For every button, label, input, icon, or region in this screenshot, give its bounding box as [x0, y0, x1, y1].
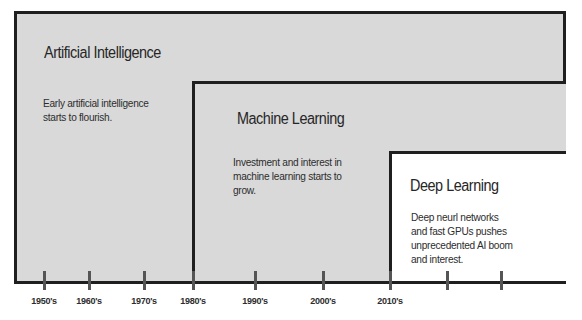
- dl-description-line: Deep neurl networks: [411, 210, 513, 224]
- tick-future-2: [500, 271, 503, 290]
- tick-label-1960s: 1960's: [59, 296, 119, 306]
- dl-description-line: and fast GPUs pushes: [411, 224, 513, 238]
- tick-label-1980s: 1980's: [163, 296, 223, 306]
- tick-1950s: [43, 271, 46, 290]
- ai-title: Artificial Intelligence: [44, 44, 161, 62]
- ml-description-line: machine learning starts to: [233, 169, 342, 183]
- ml-description: Investment and interest in machine learn…: [233, 155, 342, 197]
- ml-description-line: grow.: [233, 183, 342, 197]
- ml-title: Machine Learning: [237, 110, 344, 128]
- dl-description-line: and interest.: [411, 252, 513, 266]
- tick-label-2000s: 2000's: [293, 296, 353, 306]
- dl-title: Deep Learning: [410, 177, 499, 195]
- tick-1970s: [143, 271, 146, 290]
- timeline-axis: [14, 281, 566, 284]
- ml-description-line: Investment and interest in: [233, 155, 342, 169]
- tick-2000s: [322, 271, 325, 290]
- ai-description-line: Early artificial intelligence: [43, 96, 149, 110]
- tick-future-1: [446, 271, 449, 290]
- ai-description: Early artificial intelligence starts to …: [43, 96, 149, 124]
- tick-label-2010s: 2010's: [360, 296, 420, 306]
- ai-description-line: starts to flourish.: [43, 110, 149, 124]
- dl-description-line: unprecedented AI boom: [411, 238, 513, 252]
- tick-label-1990s: 1990's: [225, 296, 285, 306]
- tick-1990s: [254, 271, 257, 290]
- tick-1960s: [88, 271, 91, 290]
- tick-2010s: [389, 271, 392, 290]
- tick-1980s: [192, 271, 195, 290]
- dl-description: Deep neurl networks and fast GPUs pushes…: [411, 210, 513, 266]
